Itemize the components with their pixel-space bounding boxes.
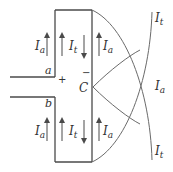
node-c-label: C [79,81,88,95]
label-it-bottom-left: It [68,124,78,140]
plus-sign: + [58,74,66,85]
label-ia-bottom-right: Ia [102,124,113,140]
label-ia-top-left: Ia [34,39,45,55]
curve-it-bottom-to-top [92,12,152,162]
current-curves [92,10,152,162]
curve-label-it-bottom: It [154,144,164,160]
label-ia-bottom-left: Ia [34,124,45,140]
curve-ia-from-c [93,50,140,124]
terminal-b-label: b [45,97,52,110]
curve-it-top-to-bottom [92,10,152,160]
antenna-current-diagram: Ia It Ia Ia It Ia a b + − C It Ia It [0,0,173,172]
curve-label-it-top: It [154,11,164,27]
curve-label-ia-middle: Ia [154,79,165,95]
minus-sign: − [82,67,90,78]
label-ia-top-right: Ia [102,39,113,55]
label-it-top-left: It [68,39,78,55]
terminal-a-label: a [45,64,52,77]
